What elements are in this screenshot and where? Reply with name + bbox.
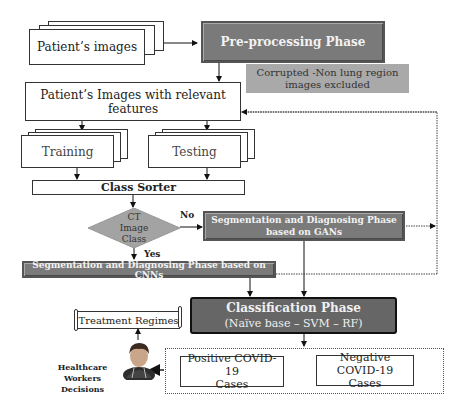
edge-label-yes: Yes <box>144 249 160 259</box>
positive-covid-node: Positive COVID-19 Cases <box>180 356 284 387</box>
patients-images-label: Patient’s images <box>37 40 137 54</box>
treatment-label: Treatment Regimes <box>79 315 179 326</box>
decision-line-1: CT <box>128 212 141 223</box>
negative-line-2: Cases <box>349 377 382 390</box>
positive-line-2: Cases <box>216 378 249 391</box>
class-sorter-label: Class Sorter <box>101 181 176 194</box>
preprocessing-label: Pre-processing Phase <box>221 35 366 49</box>
relevant-features-label: Patient’s Images with relevant features <box>26 88 240 116</box>
negative-line-1: Negative COVID-19 <box>317 351 413 377</box>
hc-line-2: Decisions <box>40 384 125 395</box>
gan-line-1: Segmentation and Diagnosing Phase <box>211 214 397 226</box>
cnn-label: Segmentation and Diagnosing Phase based … <box>24 260 274 280</box>
training-node: Training <box>21 135 114 168</box>
healthcare-workers-label: Healthcare Workers Decisions <box>40 362 125 395</box>
class-sorter-node: Class Sorter <box>32 180 245 195</box>
excluded-images-note: Corrupted -Non lung region images exclud… <box>246 64 409 93</box>
training-label: Training <box>42 145 94 159</box>
gan-segmentation-node: Segmentation and Diagnosing Phase based … <box>203 211 405 241</box>
edge-label-no: No <box>180 210 194 220</box>
decision-line-2: Image <box>120 223 149 234</box>
treatment-regimes-node: Treatment Regimes <box>77 311 180 329</box>
decision-text: CT Image Class <box>108 209 160 247</box>
relevant-features-node: Patient’s Images with relevant features <box>25 82 241 121</box>
scroll-icon <box>74 309 78 331</box>
positive-line-1: Positive COVID-19 <box>181 352 283 378</box>
cnn-segmentation-node: Segmentation and Diagnosing Phase based … <box>22 261 276 278</box>
doctor-avatar-icon <box>122 340 156 380</box>
negative-covid-node: Negative COVID-19 Cases <box>316 355 414 386</box>
gan-line-2: based on GANs <box>266 226 342 238</box>
testing-node: Testing <box>148 135 241 168</box>
testing-label: Testing <box>172 145 216 159</box>
scroll-end-icon <box>178 306 182 328</box>
classification-phase-node: Classification Phase (Naïve base – SVM –… <box>190 297 397 334</box>
decision-line-3: Class <box>122 234 146 245</box>
excluded-note-label: Corrupted -Non lung region images exclud… <box>250 67 405 91</box>
patients-images-node: Patient’s images <box>29 29 145 65</box>
classification-title: Classification Phase <box>226 301 361 316</box>
preprocessing-phase-node: Pre-processing Phase <box>201 21 385 63</box>
classification-methods: (Naïve base – SVM – RF) <box>225 316 363 331</box>
hc-line-1: Healthcare Workers <box>40 362 125 384</box>
